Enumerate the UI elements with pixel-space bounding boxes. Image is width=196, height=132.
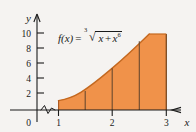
- origin-label: 0: [26, 118, 31, 128]
- formula-cube-root: 3√x+x6: [83, 31, 121, 44]
- radicand-exponent: 6: [117, 31, 120, 38]
- function-formula: f(x)=3√x+x6: [58, 31, 122, 44]
- plot-area: 10 8 6 4 2 0 1 2 3 y x: [0, 0, 196, 132]
- math-figure: 10 8 6 4 2 0 1 2 3 y x f(x)=3√x+x6: [0, 0, 196, 132]
- x-tick-label-1: 1: [56, 118, 61, 128]
- y-tick-label-10: 10: [22, 29, 32, 39]
- radical-sign-icon: √: [89, 31, 96, 43]
- formula-equals: =: [73, 32, 83, 44]
- y-tick-label-2: 2: [26, 89, 31, 99]
- root-index: 3: [84, 27, 87, 34]
- x-tick-label-2: 2: [110, 118, 115, 128]
- y-tick-label-4: 4: [26, 74, 31, 84]
- y-axis-label: y: [25, 12, 31, 24]
- formula-function-name: f(x): [58, 32, 73, 44]
- formula-radicand: x+x6: [95, 31, 121, 44]
- radicand-plus: +: [103, 32, 112, 44]
- y-tick-label-8: 8: [26, 44, 31, 54]
- x-tick-label-3: 3: [164, 118, 169, 128]
- y-tick-label-6: 6: [26, 59, 31, 69]
- x-axis-label: x: [184, 116, 190, 128]
